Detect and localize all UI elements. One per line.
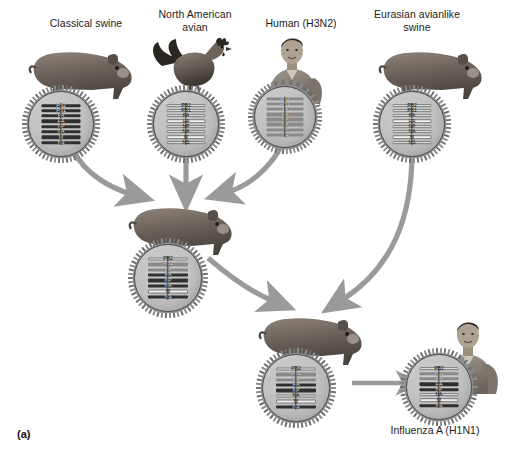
virion-envelope: PB2PB1PAHANPNAMNS [254, 86, 316, 148]
arrow-triple-reassortant-to-reassortant [208, 258, 273, 301]
segment-axis [295, 366, 296, 410]
virion-triple-reassortant-swine: PB2PB1PAHANPNAMNS [128, 238, 208, 318]
virion-pandemic-h1n1: PB2PB1PAHANPNAMNS [400, 348, 478, 426]
virion-core: PB2PB1PAHANPNAMNS [259, 91, 312, 144]
panel-label: (a) [17, 428, 30, 440]
virion-envelope: PB2PB1PAHANPNAMNS [406, 354, 472, 420]
virion-human-h3n2: PB2PB1PAHANPNAMNS [248, 80, 322, 154]
arrow-eurasian-swine-to-reassortant [342, 152, 412, 300]
label-classical-swine: Classical swine [26, 17, 146, 30]
virion-envelope: PB2PB1PAHANPNAMNS [28, 91, 94, 157]
segment-axis [167, 256, 168, 300]
virion-core: PB2PB1PAHANPNAMNS [139, 249, 196, 306]
label-eurasian-avianlike-swine: Eurasian avianlike swine [358, 8, 476, 33]
virion-envelope: PB2PB1PAHANPNAMNS [379, 91, 445, 157]
segment-axis [185, 103, 186, 145]
virion-core: PB2PB1PAHANPNAMNS [158, 96, 214, 152]
segment-axis [411, 103, 412, 145]
virion-envelope: PB2PB1PAHANPNAMNS [153, 91, 219, 157]
virion-reassortant-swine: PB2PB1PAHANPNAMNS [256, 348, 336, 428]
virion-eurasian-avianlike-swine: PB2PB1PAHANPNAMNS [373, 85, 451, 163]
virion-envelope: PB2PB1PAHANPNAMNS [134, 244, 201, 311]
virion-core: PB2PB1PAHANPNAMNS [411, 359, 467, 415]
segment-axis [60, 103, 61, 145]
virion-core: PB2PB1PAHANPNAMNS [33, 96, 89, 152]
virion-core: PB2PB1PAHANPNAMNS [384, 96, 440, 152]
segment-axis [438, 366, 439, 408]
virion-core: PB2PB1PAHANPNAMNS [267, 359, 324, 416]
virion-classical-swine: PB2PB1PAHANPNAMNS [22, 85, 100, 163]
label-human-h3n2: Human (H3N2) [246, 17, 356, 30]
virion-envelope: PB2PB1PAHANPNAMNS [262, 354, 329, 421]
segment-axis [284, 97, 285, 137]
influenza-reassortment-diagram: Classical swine North American avian Hum… [0, 0, 518, 455]
virion-north-american-avian: PB2PB1PAHANPNAMNS [147, 85, 225, 163]
label-north-american-avian: North American avian [140, 8, 250, 33]
